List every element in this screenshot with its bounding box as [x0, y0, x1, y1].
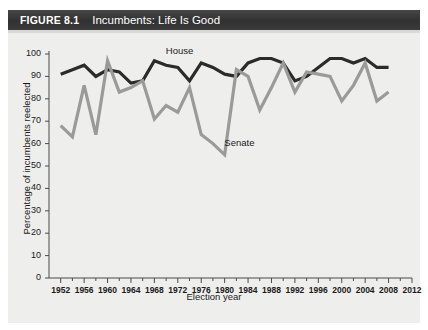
y-axis-tick-label: 40: [17, 182, 41, 192]
y-axis-tick-label: 30: [17, 205, 41, 215]
y-axis-tick-label: 90: [17, 70, 41, 80]
chart-panel: Percentage of incumbents reelected Elect…: [8, 33, 420, 323]
y-axis-tick-label: 60: [17, 138, 41, 148]
chart-plot-area: [8, 33, 420, 323]
figure-title-band: FIGURE 8.1 Incumbents: Life Is Good: [8, 10, 420, 30]
figure-container: FIGURE 8.1 Incumbents: Life Is Good Perc…: [0, 0, 428, 330]
y-axis-tick-label: 20: [17, 227, 41, 237]
series-label-senate: Senate: [224, 137, 254, 148]
y-axis-tick-label: 70: [17, 115, 41, 125]
y-axis-tick-label: 100: [17, 48, 41, 58]
x-axis-tick-label: 2012: [397, 285, 427, 295]
y-axis-tick-label: 80: [17, 93, 41, 103]
series-label-house: House: [166, 45, 193, 56]
y-axis-tick-label: 0: [17, 272, 41, 282]
y-axis-tick-label: 50: [17, 160, 41, 170]
y-axis-tick-label: 10: [17, 250, 41, 260]
figure-title: Incumbents: Life Is Good: [92, 14, 220, 26]
figure-number: FIGURE 8.1: [20, 14, 79, 26]
